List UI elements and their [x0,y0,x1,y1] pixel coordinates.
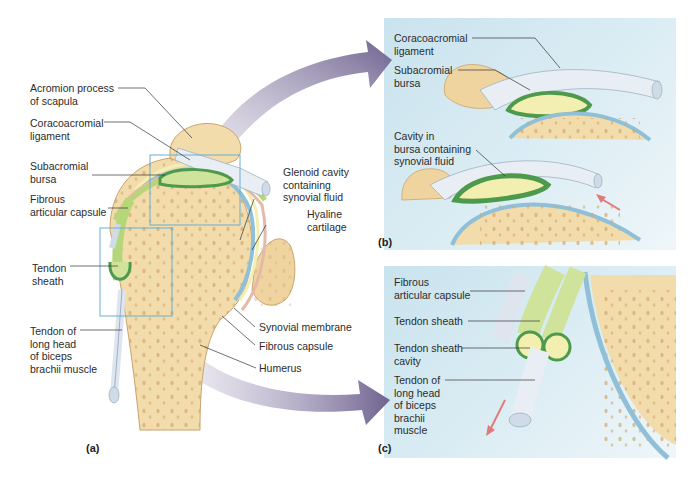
label-tendon-sheath-cavity: Tendon sheath cavity [394,342,463,367]
label-acromion-process: Acromion process of scapula [30,82,114,107]
panel-c-tag: (c) [378,442,391,454]
label-fibrous-articular-capsule-c: Fibrous articular capsule [394,276,470,301]
label-tendon-biceps-a: Tendon of long head of biceps brachii mu… [30,325,97,375]
label-tendon-biceps-c: Tendon of long head of biceps brachii mu… [394,374,440,437]
label-hyaline-cartilage: Hyaline cartilage [307,208,347,233]
label-subacromial-bursa-a: Subacromial bursa [30,160,88,185]
panel-b-tag: (b) [378,236,392,248]
label-glenoid-cavity: Glenoid cavity containing synovial fluid [283,166,349,204]
label-synovial-membrane: Synovial membrane [259,321,352,334]
motion-arrow-c [490,400,505,430]
panel-a-tag: (a) [86,442,99,454]
label-cavity-in-bursa: Cavity in bursa containing synovial flui… [394,130,471,168]
label-coracoacromial-ligament-b: Coracoacromial ligament [394,32,468,57]
label-subacromial-bursa-b: Subacromial bursa [394,64,452,89]
label-tendon-sheath-a: Tendon sheath [32,262,66,287]
label-coracoacromial-ligament-a: Coracoacromial ligament [30,117,104,142]
label-fibrous-articular-capsule-a: Fibrous articular capsule [30,193,106,218]
panel-c-illustration [486,270,676,458]
shoulder-joint-illustration [0,0,696,482]
label-fibrous-capsule: Fibrous capsule [259,340,333,353]
label-humerus: Humerus [259,362,302,375]
label-tendon-sheath-c: Tendon sheath [394,315,463,328]
